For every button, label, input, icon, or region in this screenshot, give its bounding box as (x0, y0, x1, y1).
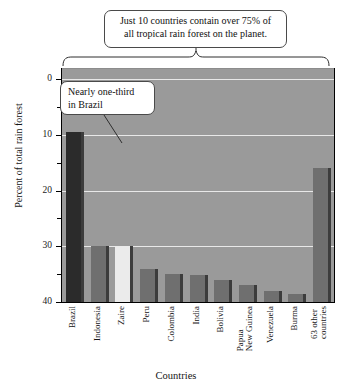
bar-face (140, 269, 155, 302)
callout-top-line1: Just 10 countries contain over 75% of (112, 15, 279, 28)
y-tick-major-30 (56, 135, 61, 136)
bar-papua (239, 285, 254, 302)
x-label-line: Colombia (167, 306, 176, 342)
y-tick-minor-25 (57, 163, 61, 164)
bar-colombia (165, 274, 180, 302)
x-label-line: Peru (142, 306, 151, 323)
x-label-venezuela: Venezuela (266, 306, 275, 343)
bar-face (239, 285, 254, 302)
gridline-40 (62, 79, 334, 80)
y-tick-label-20: 20 (30, 186, 52, 195)
bar-side (180, 274, 183, 302)
bar-side (279, 291, 282, 302)
bar-face (190, 275, 205, 302)
x-label-india: India (192, 306, 201, 325)
callout-brazil-line1: Nearly one-third (68, 86, 147, 99)
y-tick-major-40 (56, 79, 61, 80)
x-label-line: Bolivia (216, 306, 225, 333)
bar-face (264, 291, 279, 302)
bar-venezuela (264, 291, 279, 302)
bar-side (229, 280, 232, 302)
bar-face (313, 168, 328, 302)
gridline-30 (62, 135, 334, 136)
bar-side (106, 246, 109, 302)
axis-right (334, 68, 335, 303)
bar-bolivia (214, 280, 229, 302)
bar-side (254, 285, 257, 302)
axis-top (61, 68, 335, 69)
x-label-line: Venezuela (266, 306, 275, 343)
bar-zaire (115, 246, 130, 302)
x-label-line: New Guinea (245, 306, 254, 351)
callout-brazil: Nearly one-third in Brazil (60, 81, 155, 115)
x-label-line: India (192, 306, 201, 325)
bar-brazil (66, 132, 81, 302)
y-tick-major-10 (56, 246, 61, 247)
x-label-burma: Burma (290, 306, 299, 331)
bar-side (155, 269, 158, 302)
x-label-line: countries (319, 306, 328, 339)
callout-brazil-line2: in Brazil (68, 99, 147, 112)
y-tick-major-0 (56, 302, 61, 303)
bar-side (205, 275, 208, 302)
bar-other (313, 168, 328, 302)
bar-face (66, 132, 81, 302)
bar-side (81, 132, 84, 302)
bar-burma (288, 294, 303, 302)
x-axis-title: Countries (0, 370, 352, 381)
bar-side (130, 246, 133, 302)
callout-top-line2: all tropical rain forest on the planet. (112, 28, 279, 41)
x-label-papua: PapuaNew Guinea (236, 306, 254, 351)
x-label-other: 63 othercountries (310, 306, 328, 339)
bar-face (165, 274, 180, 302)
callout-top-countries: Just 10 countries contain over 75% of al… (104, 10, 287, 48)
chart-figure: 403020100 BrazilIndonesiaZairePeruColomb… (0, 0, 352, 389)
x-label-indonesia: Indonesia (93, 306, 102, 341)
bar-face (214, 280, 229, 302)
x-label-peru: Peru (142, 306, 151, 323)
bar-side (303, 294, 306, 302)
bar-side (328, 168, 331, 302)
y-tick-label-30: 10 (30, 130, 52, 139)
bar-face (115, 246, 130, 302)
y-tick-label-0: 40 (30, 297, 52, 306)
y-tick-major-20 (56, 191, 61, 192)
x-label-zaire: Zaire (117, 306, 126, 325)
x-label-line: Burma (290, 306, 299, 331)
x-label-bolivia: Bolivia (216, 306, 225, 333)
bar-peru (140, 269, 155, 302)
x-label-brazil: Brazil (68, 306, 77, 328)
bar-face (288, 294, 303, 302)
bar-indonesia (91, 246, 106, 302)
axis-bottom (61, 302, 335, 303)
x-label-colombia: Colombia (167, 306, 176, 342)
x-label-line: Indonesia (93, 306, 102, 341)
y-tick-label-40: 0 (30, 74, 52, 83)
bar-face (91, 246, 106, 302)
x-label-line: Brazil (68, 306, 77, 328)
y-tick-minor-5 (57, 274, 61, 275)
y-axis-title: Percent of total rain forest (13, 86, 24, 226)
y-tick-minor-15 (57, 218, 61, 219)
x-label-line: Zaire (117, 306, 126, 325)
gridline-20 (62, 191, 334, 192)
bar-india (190, 275, 205, 302)
y-tick-label-10: 30 (30, 241, 52, 250)
